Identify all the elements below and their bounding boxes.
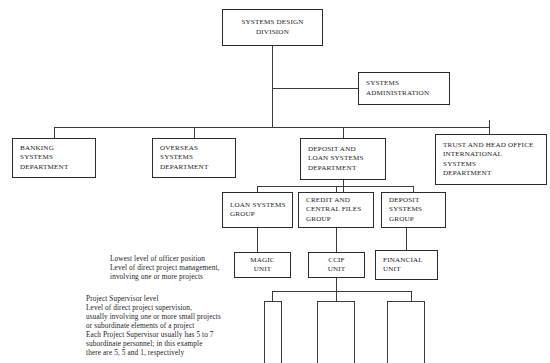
node-deposit-systems-group[interactable]: DEPOSIT SYSTEMS GROUP	[381, 192, 446, 228]
node-label: TRUST AND HEAD OFFICE INTERNATIONAL SYST…	[436, 141, 537, 177]
node-label: SYSTEMS DESIGN DIVISION	[223, 18, 322, 36]
connector-credit-group-to-ccif	[336, 228, 337, 252]
node-label: DEPOSIT AND LOAN SYSTEMS DEPARTMENT	[301, 145, 367, 172]
annotation-supervisor-level: Project Supervisor level Level of direct…	[86, 294, 261, 357]
annotation-officer-level: Lowest level of officer position Level o…	[110, 254, 250, 281]
node-financial-unit[interactable]: FINANCIAL UNIT	[375, 250, 438, 280]
connector-supervisor-bus	[272, 291, 412, 292]
node-deposit-and-loan-systems-department[interactable]: DEPOSIT AND LOAN SYSTEMS DEPARTMENT	[300, 138, 386, 180]
connector-ccif-trunk	[336, 278, 337, 302]
node-trust-and-head-office-international-systems-department[interactable]: TRUST AND HEAD OFFICE INTERNATIONAL SYST…	[435, 134, 547, 185]
node-label: LOAN SYSTEMS GROUP	[223, 201, 289, 219]
node-label: BANKING SYSTEMS DEPARTMENT	[13, 144, 71, 171]
supervisor-box-2	[317, 301, 355, 363]
node-loan-systems-group[interactable]: LOAN SYSTEMS GROUP	[222, 192, 293, 228]
connector-drop-trust	[489, 120, 490, 134]
node-overseas-systems-department[interactable]: OVERSEAS SYSTEMS DEPARTMENT	[152, 138, 236, 178]
node-label: OVERSEAS SYSTEMS DEPARTMENT	[153, 144, 211, 171]
connector-department-bus	[54, 127, 489, 128]
connector-drop-overseas	[194, 127, 195, 138]
connector-loan-group-to-magic	[257, 228, 258, 252]
node-label: CREDIT AND CENTRAL FILES GROUP	[299, 196, 364, 223]
node-label: FINANCIAL UNIT	[376, 256, 426, 274]
node-ccif-unit[interactable]: CCIF UNIT	[308, 252, 365, 278]
connector-drop-banking	[54, 127, 55, 138]
node-label: DEPOSIT SYSTEMS GROUP	[382, 196, 425, 223]
supervisor-box-1	[264, 301, 282, 363]
supervisor-box-3	[387, 301, 425, 363]
node-label: SYSTEMS ADMINISTRATION	[359, 79, 432, 97]
node-systems-administration[interactable]: SYSTEMS ADMINISTRATION	[358, 72, 450, 105]
connector-to-administration	[272, 88, 358, 89]
connector-drop-deposit-loan	[343, 127, 344, 138]
node-label: CCIF UNIT	[309, 256, 364, 274]
connector-deposit-group-to-financial	[406, 228, 407, 250]
node-systems-design-division[interactable]: SYSTEMS DESIGN DIVISION	[222, 9, 323, 46]
org-chart: SYSTEMS DESIGN DIVISION SYSTEMS ADMINIST…	[0, 0, 550, 363]
connector-division-trunk	[272, 46, 273, 127]
node-credit-and-central-files-group[interactable]: CREDIT AND CENTRAL FILES GROUP	[298, 192, 374, 228]
node-banking-systems-department[interactable]: BANKING SYSTEMS DEPARTMENT	[12, 138, 96, 178]
